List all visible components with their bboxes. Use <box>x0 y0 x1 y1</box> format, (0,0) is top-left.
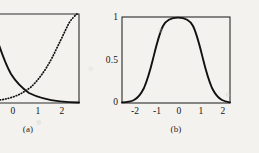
panel-b-xtick-0: 0 <box>172 106 186 116</box>
panel-b-ytick-0: 0 <box>100 97 118 107</box>
panel-a-curve-growth <box>0 14 77 102</box>
panel-b-caption: (b) <box>163 124 189 134</box>
panel-a-plot <box>0 0 110 120</box>
panel-b-ytick-0point5: 0.5 <box>100 55 118 65</box>
panel-b-ytick-1: 1 <box>100 12 118 22</box>
panel-a-xtick-0: 0 <box>7 106 19 116</box>
panel-a-caption: (a) <box>15 124 41 134</box>
panel-a: 0 1 2 (a) <box>0 0 110 120</box>
panel-b-xtick-2: 2 <box>216 106 230 116</box>
panel-b-curve-gaussian <box>122 18 230 103</box>
figure-container: 0 1 2 (a) 1 0.5 0 -2 -1 0 1 2 (b) <box>0 0 259 153</box>
panel-b-xtick-minus2: -2 <box>128 106 142 116</box>
panel-b-xtick-minus1: -1 <box>150 106 164 116</box>
panel-a-xtick-1: 1 <box>32 106 44 116</box>
panel-b-plot <box>100 0 259 120</box>
panel-b-xtick-1: 1 <box>194 106 208 116</box>
panel-a-xtick-2: 2 <box>56 106 68 116</box>
panel-b: 1 0.5 0 -2 -1 0 1 2 (b) <box>100 0 259 120</box>
